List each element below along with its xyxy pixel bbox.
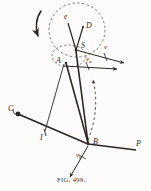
vector-va: [64, 66, 117, 69]
point-label-C: C: [8, 105, 13, 113]
point-marker-D: [82, 26, 84, 28]
vector-label-vb: vb: [76, 152, 82, 160]
vector-label-v: v: [104, 44, 107, 51]
ground-line-C-B: [18, 114, 88, 144]
vector-label-va-sub: a: [89, 59, 92, 64]
point-label-P: P: [136, 140, 141, 148]
figure-canvas: e D S A C I B P v va vb FIG. 499.: [0, 0, 151, 191]
point-label-I: I: [40, 134, 43, 142]
point-label-e: e: [64, 13, 68, 21]
figure-caption: FIG. 499.: [57, 176, 86, 183]
vector-label-vb-sub: b: [79, 155, 82, 160]
vector-label-v-base: v: [104, 43, 107, 51]
kinematics-diagram: [0, 0, 151, 191]
link-S-e: [68, 23, 76, 50]
link-A-I: [45, 64, 64, 131]
vector-v-tick: [104, 53, 107, 61]
point-label-A: A: [56, 57, 61, 65]
point-label-S: S: [81, 42, 85, 50]
dashed-arc-to-B: [88, 80, 96, 140]
vector-v: [76, 50, 124, 63]
vector-label-va: va: [86, 56, 92, 64]
point-label-B: B: [93, 138, 98, 146]
point-marker-B: [87, 143, 90, 146]
curved-rotation-arrow: [36, 11, 41, 36]
point-label-D: D: [86, 22, 92, 30]
link-A-B: [66, 63, 88, 143]
link-S-B: [76, 51, 88, 143]
dashed-path-of-D: [49, 3, 105, 57]
